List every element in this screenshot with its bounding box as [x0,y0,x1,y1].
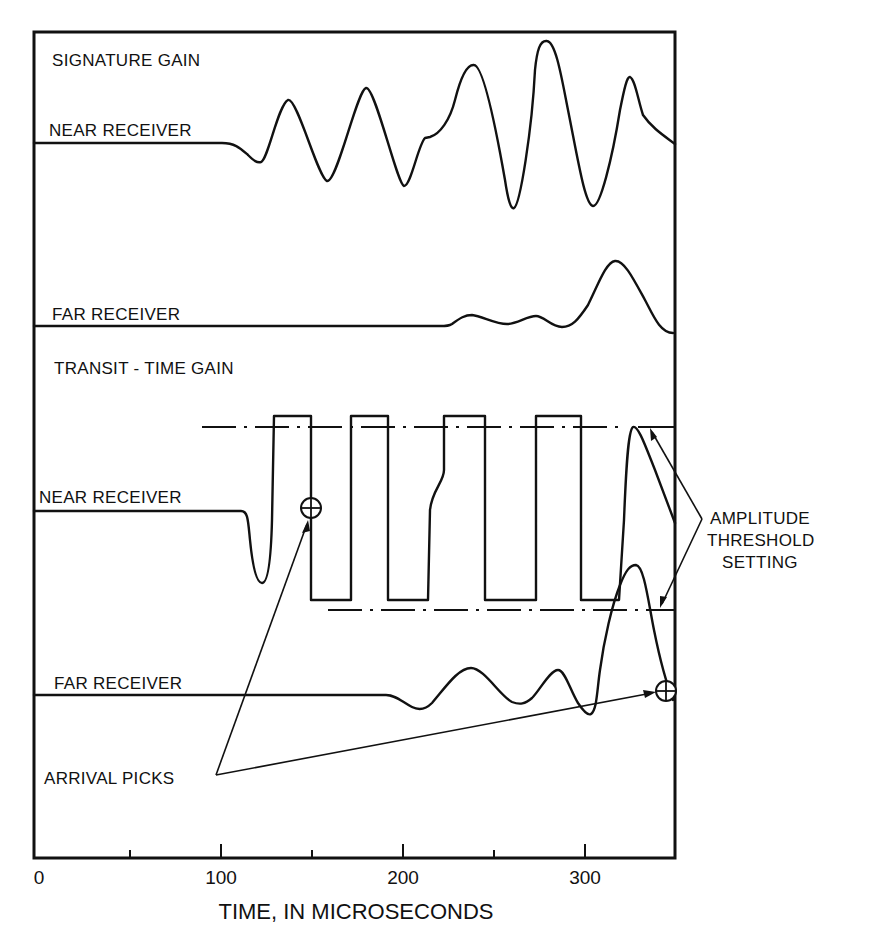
tick-label-100: 100 [205,867,237,888]
near-arrival-pick-marker [301,498,321,518]
signature-far-receiver-label: FAR RECEIVER [52,305,180,324]
tick-label-200: 200 [387,867,419,888]
transit-near-receiver-label: NEAR RECEIVER [39,488,182,507]
threshold-label-line1: AMPLITUDE [710,509,810,528]
arrival-picks-label: ARRIVAL PICKS [44,769,175,788]
x-axis-title: TIME, IN MICROSECONDS [218,899,493,924]
signature-gain-title: SIGNATURE GAIN [52,51,200,70]
transit-time-gain-title: TRANSIT - TIME GAIN [54,359,234,378]
sonic-waveform-diagram: 0 100 200 300 TIME, IN MICROSECONDS SIGN… [0,0,869,952]
threshold-label-line2: THRESHOLD [707,531,815,550]
arrival-picks-arrows [216,520,656,775]
plot-frame [34,32,675,858]
x-axis-ticks [130,844,585,858]
transit-far-receiver-label: FAR RECEIVER [54,674,182,693]
tick-label-300: 300 [569,867,601,888]
signature-near-receiver-label: NEAR RECEIVER [49,121,192,140]
transit-near-receiver-trace [34,416,675,600]
tick-label-0: 0 [34,867,45,888]
threshold-label-line3: SETTING [722,553,798,572]
far-arrival-pick-marker [656,681,676,701]
